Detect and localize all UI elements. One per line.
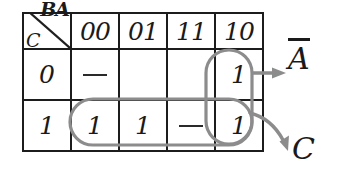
cell-r1-c01[interactable]: 1 <box>119 100 167 151</box>
row-header-1: 1 <box>23 100 71 151</box>
kmap-diagram: BA C 00 01 11 10 0 1 1 1 1 <box>0 0 338 182</box>
cell-r0-c01[interactable] <box>119 49 167 100</box>
table-row: 0 1 <box>23 49 263 100</box>
dont-care-dash-icon <box>179 125 203 127</box>
implicant-label-c: C <box>292 134 315 164</box>
implicant-label-a-not-text: A <box>288 41 310 76</box>
column-header-10: 10 <box>215 13 263 49</box>
table-row: 1 1 1 1 <box>23 100 263 151</box>
column-header-11: 11 <box>167 13 215 49</box>
cell-r0-c11[interactable] <box>167 49 215 100</box>
cell-r1-c00[interactable]: 1 <box>71 100 119 151</box>
axis-label-rows: C <box>26 31 41 50</box>
implicant-label-a-not: A <box>288 38 310 74</box>
column-header-01: 01 <box>119 13 167 49</box>
cell-r1-c10[interactable]: 1 <box>215 100 263 151</box>
kmap-corner-cell: BA C <box>23 13 71 49</box>
column-header-00: 00 <box>71 13 119 49</box>
table-row-header: BA C 00 01 11 10 <box>23 13 263 49</box>
kmap-grid: BA C 00 01 11 10 0 1 1 1 1 <box>22 12 264 152</box>
cell-r0-c00[interactable] <box>71 49 119 100</box>
axis-label-columns: BA <box>40 0 69 19</box>
row-header-0: 0 <box>23 49 71 100</box>
cell-r1-c11[interactable] <box>167 100 215 151</box>
dont-care-dash-icon <box>83 74 107 76</box>
cell-r0-c10[interactable]: 1 <box>215 49 263 100</box>
